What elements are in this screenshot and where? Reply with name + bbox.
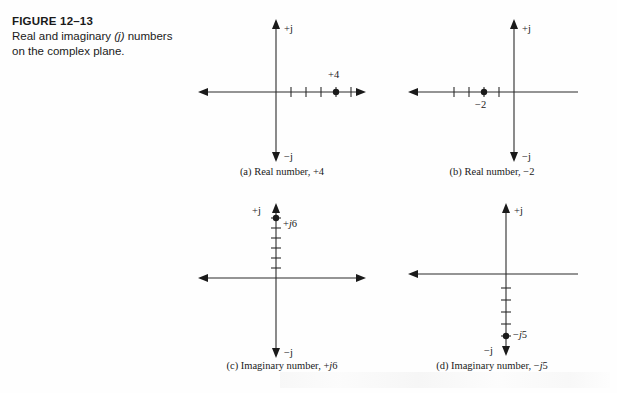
figure-caption-block: FIGURE 12–13 Real and imaginary (j) numb… <box>12 14 192 58</box>
panel-c: +j6 +j −j (c) Imaginary number, +j6 <box>196 200 368 380</box>
panel-a: +4 +j −j (a) Real number, +4 <box>196 14 368 182</box>
plot-b-complex-plane: −2 +j −j <box>406 14 578 164</box>
panel-b: −2 +j −j (b) Real number, −2 <box>406 14 578 182</box>
imaginary-axis-c <box>272 203 280 358</box>
sub-caption-d-pre: (d) Imaginary number, <box>436 360 534 371</box>
axis-label-negative-j-b: −j <box>522 151 531 162</box>
imaginary-axis-b <box>510 19 518 162</box>
data-point-label-d: −j5 <box>513 329 527 340</box>
sub-caption-a-value: +4 <box>313 166 324 177</box>
caption-text-pre: Real and imaginary <box>12 30 114 42</box>
data-point-label-c: +j6 <box>283 218 297 229</box>
axis-label-negative-j-a: −j <box>284 151 293 162</box>
data-point-label-d-post: 5 <box>522 329 527 340</box>
axis-label-positive-j-d: +j <box>514 205 523 216</box>
figure-number: FIGURE 12–13 <box>12 14 192 28</box>
plot-d-complex-plane: −j5 +j −j <box>406 200 578 360</box>
sub-caption-d: (d) Imaginary number, −j5 <box>406 360 578 371</box>
real-axis-a <box>198 88 366 96</box>
sub-caption-a: (a) Real number, +4 <box>196 166 368 177</box>
axis-label-positive-j-a: +j <box>284 23 293 34</box>
data-point-a <box>333 89 339 95</box>
figure-description: Real and imaginary (j) numbers on the co… <box>12 29 192 58</box>
caption-text-line2: on the complex plane. <box>12 45 125 57</box>
real-axis-b <box>408 88 578 96</box>
plot-a-complex-plane: +4 +j −j <box>196 14 368 164</box>
scan-artifact <box>280 372 610 388</box>
axis-label-positive-j-c: +j <box>252 205 261 216</box>
data-point-d <box>503 333 509 339</box>
sub-caption-b: (b) Real number, −2 <box>406 166 578 177</box>
axis-label-negative-j-d: −j <box>484 345 493 356</box>
sub-caption-d-value-post: 5 <box>543 360 548 371</box>
sub-caption-b-value: −2 <box>523 166 534 177</box>
axis-label-negative-j-c: −j <box>284 347 293 358</box>
data-point-label-a: +4 <box>328 69 340 80</box>
axis-label-positive-j-b: +j <box>522 23 531 34</box>
data-point-label-b: −2 <box>475 99 486 110</box>
data-point-label-c-post: 6 <box>292 218 297 229</box>
sub-caption-a-pre: (a) Real number, <box>240 166 313 177</box>
data-point-c <box>273 215 279 221</box>
data-point-b <box>481 89 487 95</box>
imaginary-axis-a <box>272 19 280 162</box>
real-axis-d <box>408 270 578 278</box>
sub-caption-b-pre: (b) Real number, <box>450 166 524 177</box>
sub-caption-c-pre: (c) Imaginary number, <box>226 360 323 371</box>
panel-d: −j5 +j −j (d) Imaginary number, −j5 <box>406 200 578 380</box>
plot-c-complex-plane: +j6 +j −j <box>196 200 368 360</box>
real-axis-c <box>198 274 366 282</box>
sub-caption-c: (c) Imaginary number, +j6 <box>196 360 368 371</box>
caption-text-post: numbers <box>125 30 173 42</box>
caption-text-j: (j) <box>114 30 124 42</box>
figure-container: FIGURE 12–13 Real and imaginary (j) numb… <box>0 0 617 393</box>
sub-caption-c-value-post: 6 <box>332 360 337 371</box>
